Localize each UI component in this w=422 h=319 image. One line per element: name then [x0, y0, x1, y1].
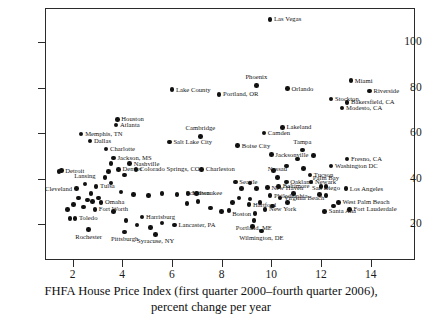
data-point — [324, 193, 329, 198]
y-axis-tick — [38, 133, 46, 134]
x-axis-tick — [321, 260, 322, 267]
y-axis-tick-label: 40 — [390, 173, 422, 185]
data-point — [254, 83, 259, 88]
data-point — [146, 193, 151, 198]
data-point — [275, 175, 280, 180]
data-point-label: Syracuse, NY — [137, 238, 174, 245]
data-point-label: Washington DC — [335, 163, 378, 170]
x-axis-caption-line-2: percent change per year — [0, 300, 422, 316]
data-point — [71, 202, 76, 207]
data-point — [172, 223, 177, 228]
data-point — [65, 207, 70, 212]
data-point-label: Colorado Springs, CO — [140, 166, 200, 173]
data-point — [258, 200, 263, 205]
data-point — [265, 185, 270, 190]
data-point — [233, 180, 238, 185]
data-point — [349, 78, 354, 83]
data-point-label: San Diego — [312, 185, 340, 192]
x-axis-tick-label: 10 — [257, 269, 285, 281]
data-point — [208, 206, 213, 211]
data-point-label: Jacksonville — [275, 151, 308, 158]
data-point — [259, 229, 264, 234]
data-point — [96, 196, 101, 201]
data-point — [199, 167, 204, 172]
data-point-label: Charlotte — [110, 146, 135, 153]
data-point — [175, 192, 180, 197]
data-point — [57, 169, 62, 174]
data-point-label: Las Vegas — [274, 16, 301, 23]
scatter-plot-figure: 20406080100 2468101214 Las VegasPhoenixM… — [0, 0, 422, 319]
data-point-label: Lake County — [176, 86, 211, 93]
data-point-label: Rochester — [75, 234, 102, 241]
y-axis-tick-label: 100 — [390, 36, 422, 48]
data-point — [270, 204, 275, 209]
data-point — [319, 184, 324, 189]
x-axis-tick — [73, 260, 74, 267]
x-axis-tick — [371, 260, 372, 267]
data-point-label: Wilmington, DE — [239, 235, 283, 242]
data-point-label: Lansing — [74, 174, 96, 181]
data-point — [74, 186, 79, 191]
data-point-label: Cambridge — [186, 126, 216, 133]
data-point-label: Pittsburgh — [111, 236, 139, 243]
data-point-label: Salt Lake City — [173, 139, 212, 146]
y-axis-tick — [38, 88, 46, 89]
data-point — [167, 140, 172, 145]
data-point — [148, 225, 153, 230]
data-point — [331, 204, 336, 209]
data-point-label: Lakeland — [286, 124, 311, 131]
data-point-label: Portland, OR — [223, 91, 258, 98]
data-point-label: Toledo — [79, 215, 98, 222]
data-point-label: Dallas — [94, 138, 111, 145]
data-point — [285, 86, 290, 91]
data-point-label: Camden — [268, 130, 290, 137]
data-point-label: New Haven — [272, 184, 304, 191]
y-axis-tick-label: 60 — [390, 127, 422, 139]
data-point — [86, 227, 91, 232]
data-point — [263, 207, 268, 212]
data-point — [68, 216, 73, 221]
data-point — [93, 207, 98, 212]
data-point-label: Phoenix — [245, 75, 267, 82]
data-point-label: Orlando — [291, 85, 313, 92]
y-axis-tick — [38, 224, 46, 225]
data-point — [103, 175, 108, 180]
data-point — [111, 209, 116, 214]
data-point — [247, 202, 252, 207]
data-point-label: Boston — [232, 210, 251, 217]
data-point-label: Miami — [355, 77, 373, 84]
data-point-label: Los Angeles — [350, 185, 383, 192]
data-point — [235, 143, 240, 148]
data-point — [124, 218, 129, 223]
data-point — [291, 191, 296, 196]
y-axis-tick — [38, 179, 46, 180]
data-point — [160, 191, 165, 196]
x-axis-caption-line-1: FHFA House Price Index (first quarter 20… — [0, 284, 422, 300]
data-point — [284, 164, 289, 169]
data-point-label: Lancaster, PA — [178, 222, 215, 229]
data-point — [250, 224, 255, 229]
data-point — [73, 216, 78, 221]
data-point — [194, 191, 199, 196]
data-point — [90, 199, 95, 204]
x-axis-caption: FHFA House Price Index (first quarter 20… — [0, 284, 422, 315]
x-axis-tick-label: 14 — [357, 269, 385, 281]
data-point — [322, 209, 327, 214]
x-axis-tick-label: 4 — [108, 269, 136, 281]
data-point — [311, 153, 316, 158]
data-point — [185, 201, 190, 206]
data-point-label: Riverside — [373, 88, 399, 95]
x-axis-tick-label: 8 — [208, 269, 236, 281]
data-point — [153, 232, 158, 237]
x-axis-tick — [172, 260, 173, 267]
data-point-label: Atlanta — [120, 122, 140, 129]
data-point — [217, 92, 222, 97]
data-point — [116, 167, 121, 172]
data-point — [94, 184, 99, 189]
data-point-label: Boise City — [242, 142, 271, 149]
data-point — [81, 205, 86, 210]
x-axis-tick — [271, 260, 272, 267]
data-point-label: Palm Bay — [313, 176, 339, 183]
data-point — [76, 196, 81, 201]
data-point — [196, 199, 201, 204]
